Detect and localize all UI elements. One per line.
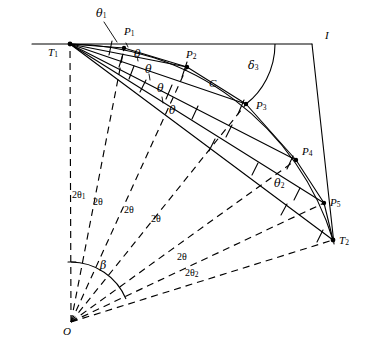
label-theta-d-text: θ — [169, 104, 176, 117]
label-theta-a: θ — [134, 49, 141, 60]
label-P1-sub: 1 — [131, 29, 135, 38]
label-two-theta-b: 2θ — [124, 205, 134, 215]
radius-O-T1 — [70, 44, 71, 322]
radius-O-P4 — [71, 160, 296, 322]
label-T1: T1 — [48, 47, 58, 59]
label-two-theta-c-text: 2θ — [151, 213, 161, 224]
point-P2 — [185, 65, 189, 69]
label-I-text: I — [325, 29, 329, 41]
label-P1: P1 — [124, 26, 134, 38]
label-theta2-text: θ — [274, 177, 281, 190]
subchord-P2-P3 — [187, 67, 246, 104]
label-delta3-text: δ — [248, 59, 255, 72]
label-two-theta-a: 2θ — [93, 197, 103, 207]
label-C: C — [209, 78, 216, 89]
label-theta-c-text: θ — [157, 82, 164, 95]
label-P4: P4 — [302, 146, 312, 158]
tick-mark — [317, 230, 323, 242]
label-P5-text: P — [330, 196, 337, 208]
label-theta-a-text: θ — [134, 48, 141, 61]
label-theta-b: θ — [145, 64, 152, 75]
tick-mark — [294, 188, 300, 200]
label-two-theta1-text: 2θ — [72, 189, 82, 200]
label-C-text: C — [209, 77, 216, 89]
label-two-theta-d-text: 2θ — [177, 251, 187, 262]
label-two-theta2: 2θ2 — [185, 268, 199, 279]
label-O-text: O — [63, 325, 71, 337]
label-P5: P5 — [330, 197, 340, 209]
delta3-arc — [246, 44, 275, 104]
label-P3-sub: 3 — [263, 103, 267, 112]
tick-mark — [287, 156, 293, 169]
label-delta3-sub: 3 — [255, 63, 259, 72]
chord-T1-P3 — [70, 44, 246, 104]
label-theta-b-text: θ — [145, 63, 152, 76]
label-theta2: θ2 — [274, 178, 284, 190]
subchord-P3-P4 — [246, 104, 296, 160]
point-P5 — [322, 201, 326, 205]
label-P4-text: P — [302, 145, 309, 157]
delta3-arc-group — [246, 44, 275, 104]
label-two-theta-c: 2θ — [151, 214, 161, 224]
point-T2 — [331, 238, 336, 243]
tick-mark — [226, 125, 232, 137]
chord-T1-P5 — [70, 44, 324, 203]
radius-O-P1 — [71, 48, 124, 322]
label-T2: T2 — [339, 235, 349, 247]
point-P4 — [294, 158, 298, 162]
geometry-diagram: T1 T2 O I P1 P2 P3 P4 P5 θ1 θ θ θ θ θ2 — [0, 0, 372, 349]
subchord-P4-P5 — [296, 160, 324, 203]
chords-from-T1 — [70, 44, 333, 240]
label-T2-sub: 2 — [345, 238, 349, 247]
label-theta-d: θ — [169, 105, 176, 116]
sub-chords — [124, 48, 333, 240]
label-P2-text: P — [186, 48, 193, 60]
label-I: I — [325, 30, 329, 41]
label-two-theta2-sub: 2 — [195, 270, 199, 279]
tick-mark — [166, 85, 172, 99]
label-two-theta-d: 2θ — [177, 252, 187, 262]
label-theta1-text: θ — [96, 7, 103, 20]
label-two-theta1-sub: 1 — [82, 192, 86, 201]
label-two-theta1: 2θ1 — [72, 190, 86, 201]
label-theta1: θ1 — [96, 8, 106, 20]
radius-O-P5 — [71, 203, 324, 322]
point-P3 — [244, 102, 248, 106]
label-P3-text: P — [256, 99, 263, 111]
label-P2-sub: 2 — [193, 52, 197, 61]
label-theta2-sub: 2 — [281, 181, 285, 190]
label-theta1-sub: 1 — [103, 11, 107, 20]
label-beta-text: β — [100, 259, 106, 272]
label-P4-sub: 4 — [309, 149, 313, 158]
label-P2: P2 — [186, 49, 196, 61]
label-two-theta-a-text: 2θ — [93, 196, 103, 207]
theta1-leader-line — [104, 22, 117, 42]
label-theta-c: θ — [157, 83, 164, 94]
label-T1-sub: 1 — [54, 50, 58, 59]
label-two-theta-b-text: 2θ — [124, 204, 134, 215]
point-P1 — [122, 46, 126, 50]
label-O: O — [63, 326, 71, 337]
chord-T1-T2 — [70, 44, 333, 240]
label-P5-sub: 5 — [337, 200, 341, 209]
radius-O-T2 — [71, 240, 333, 322]
label-beta: β — [100, 260, 106, 271]
tick-mark — [281, 204, 287, 215]
point-T1 — [68, 42, 73, 47]
label-delta3: δ3 — [248, 60, 258, 72]
radii-from-O — [70, 44, 333, 322]
tick-mark — [252, 163, 258, 175]
label-P3: P3 — [256, 100, 266, 112]
label-two-theta2-text: 2θ — [185, 267, 195, 278]
label-P1-text: P — [124, 25, 131, 37]
